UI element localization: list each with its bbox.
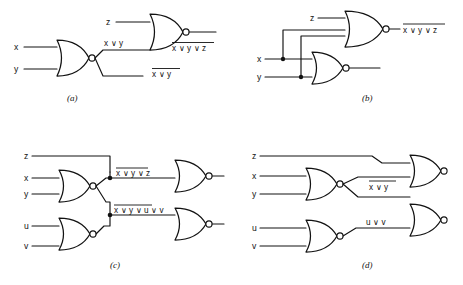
nor-gate-c1-bubble (90, 183, 96, 189)
label-input-x-c: x (24, 173, 29, 183)
label-internal-xy-a: x ∨ y (104, 39, 124, 48)
label-input-z-c: z (24, 151, 28, 161)
nor-gate-c4-bubble (206, 221, 212, 227)
nor-gate-b1-bubble (383, 26, 389, 32)
nor-gate-d2 (306, 220, 343, 252)
nor-gate-b2-bubble (343, 65, 349, 71)
wire-z-d (260, 156, 410, 163)
nor-gate-c1 (59, 170, 96, 202)
caption-d: (d) (362, 260, 373, 270)
svg-text:x ∨ y ∨ u ∨ v: x ∨ y ∨ u ∨ v (114, 206, 165, 215)
svg-text:x ∨ y: x ∨ y (369, 183, 389, 192)
junction-dot-y-b (299, 75, 303, 79)
nor-gate-d3-body (410, 155, 441, 187)
nor-gate-b2 (312, 52, 349, 84)
caption-b: (b) (362, 93, 373, 103)
label-input-z-a: z (106, 17, 110, 27)
nor-gate-a1 (57, 40, 95, 76)
subfigure-b: x y z x ∨ y ∨ z (b) (257, 11, 445, 103)
label-input-u-d: u (252, 223, 257, 233)
nor-gate-c2 (59, 218, 96, 250)
nor-gate-c3-bubble (206, 173, 212, 179)
label-input-v-c: v (24, 241, 29, 251)
nor-gate-d4 (410, 204, 447, 236)
nor-gate-c4 (175, 208, 212, 240)
label-input-x-b: x (257, 54, 262, 64)
nor-gate-c3-body (175, 160, 206, 192)
nor-gate-b1-body (345, 11, 383, 47)
wire-a1-to-a2 (95, 50, 150, 58)
label-input-x-d: x (252, 171, 257, 181)
label-input-z-d: z (252, 151, 256, 161)
nor-gate-d4-body (410, 204, 441, 236)
junction-dot-upper-c (108, 176, 113, 181)
label-input-y-d: y (252, 189, 257, 199)
label-output-b: x ∨ y ∨ z (403, 24, 445, 35)
logic-circuit-figure: x y z x ∨ y x ∨ y ∨ z (0, 0, 463, 285)
label-lower-d: u ∨ v (366, 218, 387, 227)
label-input-y-b: y (257, 72, 262, 82)
nor-gate-d3-bubble (441, 168, 447, 174)
svg-text:x ∨ y ∨ z: x ∨ y ∨ z (116, 169, 150, 178)
label-output-top-a: x ∨ y ∨ z (172, 43, 214, 54)
wire-z-c (32, 156, 110, 172)
label-bus-upper-c: x ∨ y ∨ z (116, 168, 150, 178)
caption-c: (c) (110, 260, 120, 270)
nor-gate-c4-body (175, 208, 206, 240)
svg-text:x ∨ y: x ∨ y (152, 70, 172, 79)
nor-gate-b2-body (312, 52, 343, 84)
label-input-z-b: z (310, 13, 314, 23)
nor-gate-d1-bubble (337, 181, 343, 187)
nor-gate-d2-bubble (337, 233, 343, 239)
nor-gate-c3 (175, 160, 212, 192)
label-upper-d: x ∨ y (369, 181, 396, 192)
nor-gate-d4-bubble (441, 217, 447, 223)
label-output-bottom-a: x ∨ y (152, 69, 180, 80)
nor-gate-a2-bubble (183, 29, 189, 35)
nor-gate-c1-body (59, 170, 90, 202)
nor-gate-d1 (306, 168, 343, 200)
wire-c2-out (96, 215, 110, 234)
wire-a1-to-output-label (95, 58, 143, 76)
label-input-y-c: y (24, 189, 29, 199)
subfigure-d: z x y u v x ∨ y u ∨ v (252, 151, 447, 270)
label-input-u-c: u (24, 221, 29, 231)
nor-gate-b1 (345, 11, 389, 47)
nor-gate-c2-body (59, 218, 90, 250)
label-bus-lower-c: x ∨ y ∨ u ∨ v (114, 205, 165, 215)
caption-a: (a) (67, 93, 78, 103)
label-input-y-a: y (14, 64, 19, 74)
wire-c1-down (96, 186, 110, 215)
nor-gate-d2-body (306, 220, 337, 252)
svg-text:x ∨ y ∨ z: x ∨ y ∨ z (172, 44, 206, 53)
label-input-v-d: v (252, 241, 257, 251)
wire-y-riser-b (301, 36, 345, 77)
nor-gate-d3 (410, 155, 447, 187)
circuit-canvas: x y z x ∨ y x ∨ y ∨ z (0, 0, 463, 285)
junction-dot-x-b (281, 57, 285, 61)
nor-gate-d1-body (306, 168, 337, 200)
wire-d2-out (343, 228, 410, 236)
nor-gate-a1-body (57, 40, 89, 76)
label-input-x-a: x (14, 42, 19, 52)
nor-gate-a1-bubble (89, 55, 95, 61)
subfigure-a: x y z x ∨ y x ∨ y ∨ z (14, 14, 216, 103)
nor-gate-c2-bubble (90, 231, 96, 237)
subfigure-c: z x y u v x ∨ y ∨ z x ∨ y ∨ u ∨ v (24, 151, 224, 270)
svg-text:x ∨ y ∨ z: x ∨ y ∨ z (403, 26, 437, 35)
wire-c1-up (96, 178, 110, 186)
